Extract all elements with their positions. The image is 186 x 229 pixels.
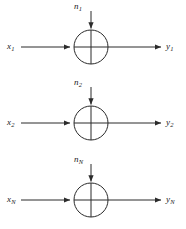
output-label: yN: [166, 195, 174, 204]
output-label: y2: [166, 118, 173, 127]
channel-lines: [0, 0, 186, 76]
channel-row: n1 x1 y1: [0, 0, 186, 76]
input-label: xN: [7, 195, 15, 204]
block-diagram: n1 x1 y1 n2 x2 y2: [0, 0, 186, 229]
noise-label: nN: [74, 155, 83, 164]
channel-row: nN xN yN: [0, 153, 186, 229]
channel-lines: [0, 153, 186, 229]
output-label: y1: [166, 42, 173, 51]
channel-row: n2 x2 y2: [0, 76, 186, 152]
noise-label: n1: [74, 2, 82, 11]
input-label: x2: [7, 118, 14, 127]
input-label: x1: [7, 42, 14, 51]
channel-lines: [0, 76, 186, 152]
noise-label: n2: [74, 78, 82, 87]
